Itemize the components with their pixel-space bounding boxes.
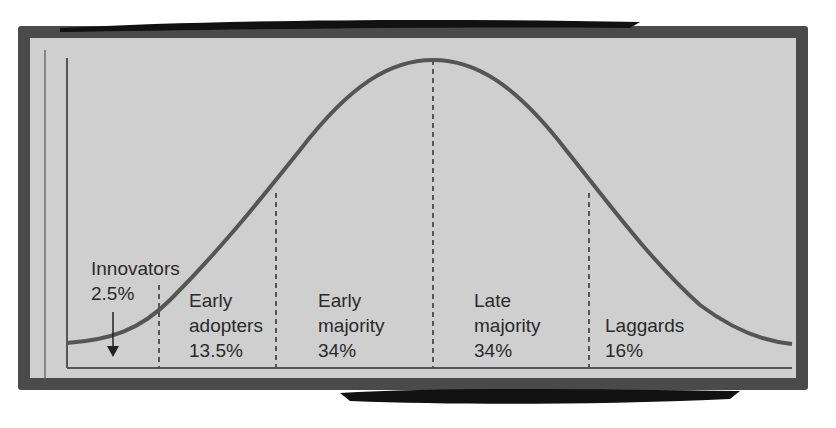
label-innovators: Innovators 2.5% [91, 256, 180, 306]
label-laggards: Laggards 16% [605, 313, 684, 363]
label-late-majority: Late majority 34% [474, 288, 541, 363]
label-early-majority: Early majority 34% [318, 288, 385, 363]
adoption-curve-plot [0, 0, 836, 428]
label-early-adopters: Early adopters 13.5% [189, 288, 263, 363]
arrow-down-icon [107, 346, 119, 357]
